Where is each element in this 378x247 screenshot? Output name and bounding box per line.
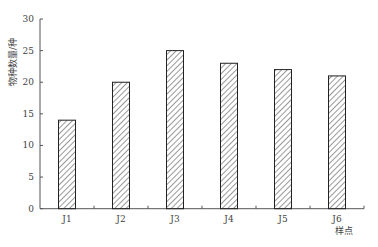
y-axis-label: 物种数量/种: [7, 38, 18, 86]
bars: [59, 51, 346, 209]
x-tick-label: J6: [331, 214, 342, 224]
x-tick-label: J5: [277, 214, 288, 224]
x-tick-label: J3: [169, 214, 180, 224]
y-tick-label: 5: [28, 172, 34, 182]
y-tick-label: 15: [23, 109, 35, 119]
x-axis: J1J2J3J4J5J6: [40, 206, 364, 224]
bar-j6: [329, 76, 346, 209]
y-tick-label: 20: [23, 77, 35, 87]
x-tick-label: J2: [115, 214, 125, 224]
y-tick-label: 10: [23, 140, 35, 150]
bar-j4: [221, 63, 238, 208]
y-axis: 051015202530: [23, 14, 43, 214]
x-axis-label: 样点: [335, 225, 353, 236]
x-tick-label: J1: [61, 214, 71, 224]
bar-j5: [275, 70, 292, 209]
y-tick-label: 30: [23, 14, 35, 24]
y-tick-label: 0: [28, 204, 34, 214]
bar-chart: 051015202530 J1J2J3J4J5J6 物种数量/种 样点: [0, 0, 378, 247]
bar-j2: [113, 82, 130, 208]
bar-j3: [167, 51, 184, 209]
y-tick-label: 25: [23, 46, 35, 56]
bar-j1: [59, 120, 76, 209]
x-tick-label: J4: [223, 214, 234, 224]
